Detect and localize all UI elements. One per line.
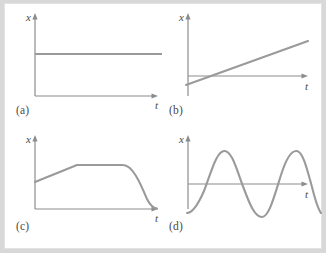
plot-svg-b: x t bbox=[164, 4, 323, 127]
x-axis-arrow-icon bbox=[152, 93, 159, 98]
x-axis-label-c: t bbox=[155, 212, 159, 224]
figure-panel: x t (a) x t (b) bbox=[4, 3, 322, 249]
axes-b bbox=[185, 13, 308, 96]
panel-caption-b: (b) bbox=[169, 104, 183, 116]
panel-caption-a: (a) bbox=[16, 104, 29, 116]
x-axis-label-d: t bbox=[305, 188, 309, 200]
plot-panel-c: x t (c) bbox=[5, 127, 164, 250]
y-axis-arrow-icon bbox=[32, 135, 37, 142]
y-axis-arrow-icon bbox=[32, 13, 37, 20]
y-axis-arrow-icon bbox=[185, 13, 190, 20]
y-axis-label-d: x bbox=[178, 133, 184, 145]
plot-panel-d: x t (d) bbox=[164, 127, 323, 250]
panel-caption-c: (c) bbox=[16, 220, 29, 232]
x-axis-label-a: t bbox=[155, 99, 159, 111]
y-axis-label-a: x bbox=[25, 11, 31, 23]
y-axis-label-c: x bbox=[25, 133, 31, 145]
axes-c bbox=[32, 135, 158, 212]
y-axis-label-b: x bbox=[178, 11, 184, 23]
y-axis-arrow-icon bbox=[185, 135, 190, 142]
curve-linear-increase bbox=[186, 41, 308, 85]
plot-panel-b: x t (b) bbox=[164, 4, 323, 127]
curve-rise-plateau-decay bbox=[35, 165, 157, 209]
plot-panel-a: x t (a) bbox=[5, 4, 164, 127]
axes-a bbox=[32, 13, 158, 99]
x-axis-arrow-icon bbox=[302, 73, 309, 78]
panel-caption-d: (d) bbox=[169, 220, 183, 232]
x-axis-label-b: t bbox=[305, 80, 309, 92]
plot-svg-d: x t bbox=[164, 127, 323, 250]
x-axis-arrow-icon bbox=[302, 181, 309, 186]
